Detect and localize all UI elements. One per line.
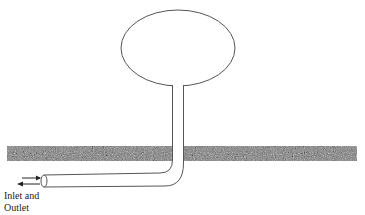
horizontal-pipe xyxy=(44,160,184,187)
inlet-outlet-label: Inlet and Outlet xyxy=(4,190,39,214)
balloon-ellipse xyxy=(121,10,235,86)
inlet-arrow-icon xyxy=(22,176,41,181)
label-line-1: Inlet and xyxy=(4,190,39,202)
outlet-arrow-icon xyxy=(17,182,40,187)
label-line-2: Outlet xyxy=(4,202,39,214)
diagram-canvas: Inlet and Outlet xyxy=(0,0,365,215)
vertical-pipe xyxy=(173,85,184,163)
pipe-open-end xyxy=(41,175,47,187)
